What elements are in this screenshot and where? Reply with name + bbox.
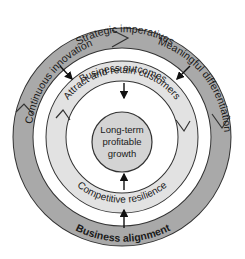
center-line2: profitable [102,136,141,147]
strategy-circle-diagram: Strategic imperatives Continuous innovat… [0,0,245,259]
center-line3: growth [108,148,137,159]
center-line1: Long-term [100,124,143,135]
